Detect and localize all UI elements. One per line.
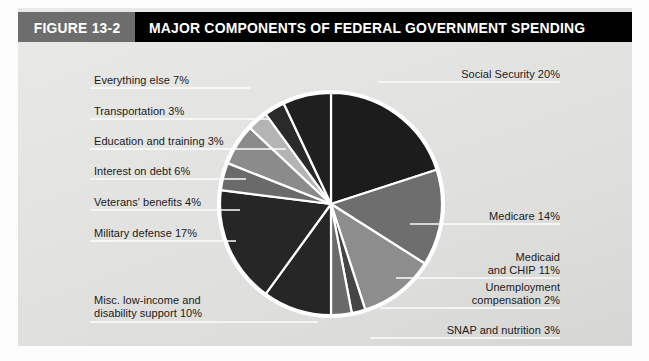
label-medicare: Medicare 14%: [489, 210, 560, 223]
label-medicaid-chip-line2: and CHIP 11%: [488, 264, 560, 277]
label-misc-support-line1: Misc. low-income and: [94, 294, 202, 307]
label-social-security: Social Security 20%: [461, 68, 560, 81]
label-medicaid-chip-line1: Medicaid: [488, 251, 560, 264]
figure-title-text: MAJOR COMPONENTS OF FEDERAL GOVERNMENT S…: [149, 19, 585, 36]
label-misc-support: Misc. low-income and disability support …: [94, 294, 202, 320]
label-military-defense: Military defense 17%: [94, 227, 197, 240]
pie-slice-group: [220, 93, 442, 315]
figure-root: FIGURE 13-2 MAJOR COMPONENTS OF FEDERAL …: [0, 0, 649, 361]
label-interest-on-debt: Interest on debt 6%: [94, 165, 190, 178]
figure-title: MAJOR COMPONENTS OF FEDERAL GOVERNMENT S…: [135, 12, 618, 42]
label-misc-support-line2: disability support 10%: [94, 307, 202, 320]
figure-banner: FIGURE 13-2 MAJOR COMPONENTS OF FEDERAL …: [18, 12, 632, 42]
label-unemployment-line2: compensation 2%: [472, 294, 560, 307]
label-unemployment-line1: Unemployment: [472, 281, 560, 294]
chart-stage: Everything else 7% Transportation 3% Edu…: [18, 44, 632, 346]
label-medicaid-chip: Medicaid and CHIP 11%: [488, 251, 560, 277]
label-veterans-benefits: Veterans' benefits 4%: [94, 196, 201, 209]
figure-number-badge: FIGURE 13-2: [18, 12, 135, 42]
label-unemployment-compensation: Unemployment compensation 2%: [472, 281, 560, 307]
label-everything-else: Everything else 7%: [94, 74, 189, 87]
figure-number-label: FIGURE 13-2: [34, 19, 121, 36]
label-education-training: Education and training 3%: [94, 135, 224, 148]
label-snap-nutrition: SNAP and nutrition 3%: [447, 324, 560, 337]
label-transportation: Transportation 3%: [94, 105, 184, 118]
